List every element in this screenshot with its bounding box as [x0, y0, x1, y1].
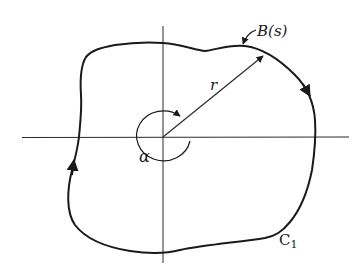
contour-diagram: B(s) r α C1: [0, 0, 363, 273]
radius-line: [163, 56, 263, 137]
contour-label-subscript: 1: [290, 238, 297, 251]
contour-arrow-right: [303, 84, 310, 96]
contour-curve-c1: [68, 42, 315, 253]
angle-label: α: [139, 147, 150, 166]
contour-arrow-left: [72, 160, 74, 175]
boundary-label: B(s): [256, 22, 288, 40]
contour-label: C1: [279, 231, 297, 251]
radius-label: r: [210, 76, 218, 94]
boundary-pointer: [243, 30, 256, 44]
contour-label-main: C: [279, 231, 290, 249]
horizontal-axis: [22, 137, 349, 138]
